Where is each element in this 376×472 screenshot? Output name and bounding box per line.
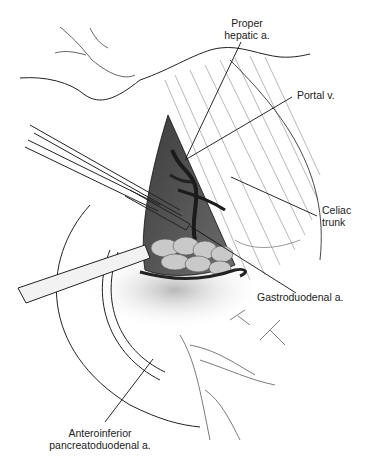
label-gastroduodenal-artery: Gastroduodenal a. bbox=[257, 291, 343, 303]
surgical-illustration bbox=[0, 0, 376, 472]
leader-celiac-trunk bbox=[231, 177, 317, 216]
label-proper-hepatic-artery: Proper hepatic a. bbox=[222, 17, 272, 41]
leader-portal-v bbox=[185, 97, 292, 160]
leader-proper-hepatic bbox=[186, 42, 241, 158]
label-portal-vein: Portal v. bbox=[297, 89, 335, 101]
label-celiac-trunk: Celiac trunk bbox=[322, 204, 351, 228]
label-anteroinferior-pancreatoduodenal-artery: Anteroinferior pancreatoduodenal a. bbox=[40, 427, 160, 451]
mesentery bbox=[180, 310, 285, 440]
